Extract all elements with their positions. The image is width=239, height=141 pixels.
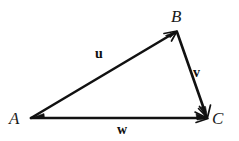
vector-label-v: v bbox=[193, 66, 200, 80]
vector-label-u: u bbox=[95, 47, 103, 61]
vector-triangle-figure: A B C u v w bbox=[0, 0, 239, 141]
vertex-label-b: B bbox=[171, 8, 181, 25]
vector-w-group bbox=[31, 109, 208, 123]
vector-label-w: w bbox=[117, 123, 127, 137]
vector-diagram-canvas bbox=[0, 0, 239, 141]
vertex-label-a: A bbox=[9, 110, 19, 127]
vector-v-shaft bbox=[177, 32, 205, 112]
vertex-label-c: C bbox=[212, 110, 223, 127]
vector-u-group bbox=[31, 31, 177, 118]
